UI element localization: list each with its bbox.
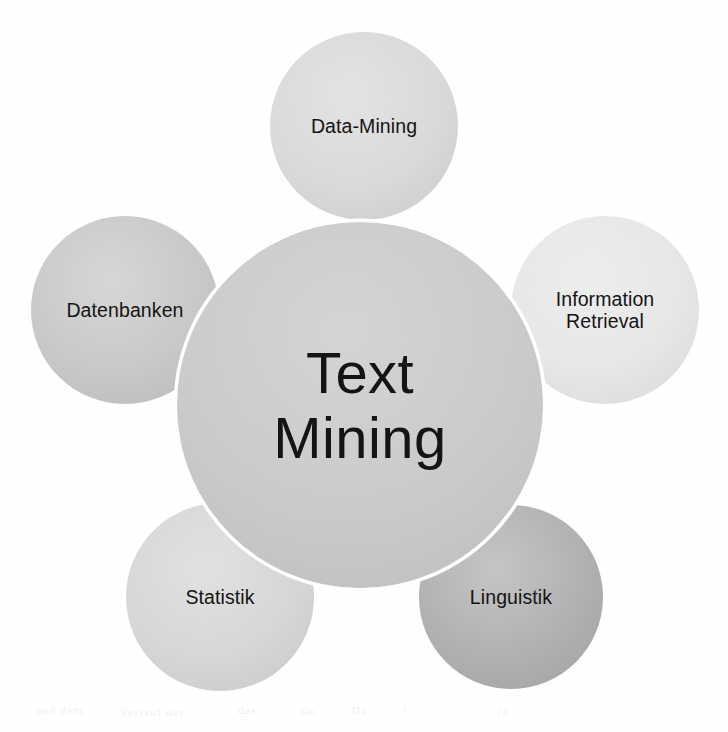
venn-diagram-svg <box>0 0 728 732</box>
center-circle-group <box>177 222 543 588</box>
center-circle-shade <box>177 222 543 588</box>
diagram-canvas: Data-Mining Information Retrieval Lingui… <box>0 0 728 732</box>
satellite-shade-data-mining <box>270 32 458 220</box>
